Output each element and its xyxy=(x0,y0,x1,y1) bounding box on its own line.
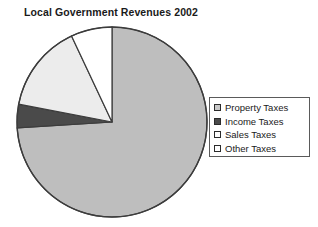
pie-svg xyxy=(0,0,230,227)
chart-legend: Property Taxes Income Taxes Sales Taxes … xyxy=(209,97,310,157)
legend-label-income-taxes: Income Taxes xyxy=(225,115,283,129)
legend-item-sales-taxes[interactable]: Sales Taxes xyxy=(214,128,309,142)
legend-swatch-other-taxes xyxy=(214,145,221,152)
pie-slice-group xyxy=(17,27,207,217)
legend-swatch-income-taxes xyxy=(214,118,221,125)
legend-item-other-taxes[interactable]: Other Taxes xyxy=(214,142,309,156)
legend-label-sales-taxes: Sales Taxes xyxy=(225,128,276,142)
pie-chart-figure: Local Government Revenues 2002 Property … xyxy=(0,0,318,227)
legend-swatch-sales-taxes xyxy=(214,131,221,138)
legend-item-income-taxes[interactable]: Income Taxes xyxy=(214,115,309,129)
legend-swatch-property-taxes xyxy=(214,104,221,111)
legend-label-property-taxes: Property Taxes xyxy=(225,101,288,115)
pie-plot-area xyxy=(0,0,230,227)
legend-label-other-taxes: Other Taxes xyxy=(225,142,276,156)
legend-item-property-taxes[interactable]: Property Taxes xyxy=(214,101,309,115)
